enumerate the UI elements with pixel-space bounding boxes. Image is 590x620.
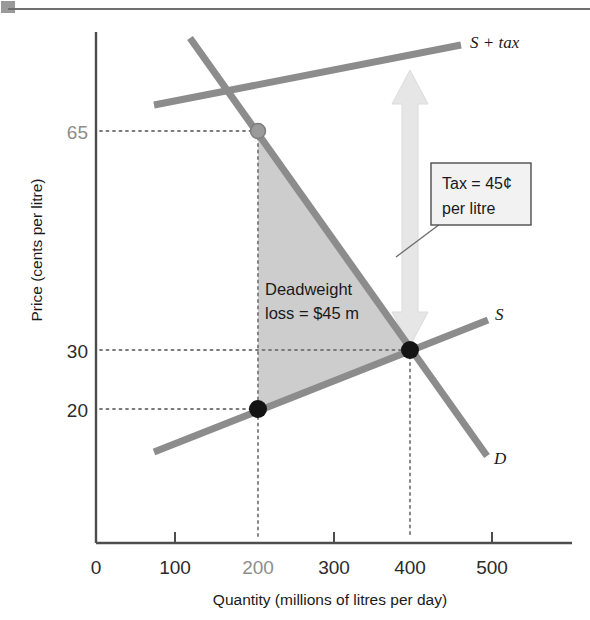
marker-equilibrium-with-tax: [251, 124, 266, 139]
y-axis-title: Price (cents per litre): [28, 179, 45, 322]
curve-demand: [190, 38, 487, 456]
tax-callout-line1: Tax = 45¢: [442, 175, 512, 192]
deadweight-loss-chart: 65 30 20 0 100 200 300 400 500 Price (ce…: [0, 0, 590, 620]
curve-label-demand: D: [493, 449, 507, 468]
deadweight-loss-region: [258, 131, 410, 409]
curve-label-supply: S: [495, 305, 504, 324]
x-tick-label-300: 300: [318, 557, 350, 578]
deadweight-loss-label-line2: loss = $45 m: [265, 304, 359, 322]
deadweight-loss-label-line1: Deadweight: [265, 280, 353, 298]
x-axis-title: Quantity (millions of litres per day): [213, 591, 447, 608]
tax-arrow: [392, 70, 428, 346]
x-tick-label-100: 100: [159, 557, 191, 578]
x-tick-label-400: 400: [394, 557, 426, 578]
marker-seller-price: [249, 400, 267, 418]
y-tick-label-20: 20: [67, 400, 88, 421]
marker-equilibrium-no-tax: [401, 341, 419, 359]
figure-page: 65 30 20 0 100 200 300 400 500 Price (ce…: [0, 0, 590, 620]
x-tick-label-500: 500: [476, 557, 508, 578]
tax-callout-line2: per litre: [442, 200, 495, 217]
x-tick-label-200: 200: [242, 557, 274, 578]
y-tick-label-30: 30: [67, 341, 88, 362]
y-tick-label-65: 65: [67, 122, 88, 143]
x-tick-label-0: 0: [91, 557, 102, 578]
curve-label-supply-plus-tax: S + tax: [470, 33, 520, 52]
